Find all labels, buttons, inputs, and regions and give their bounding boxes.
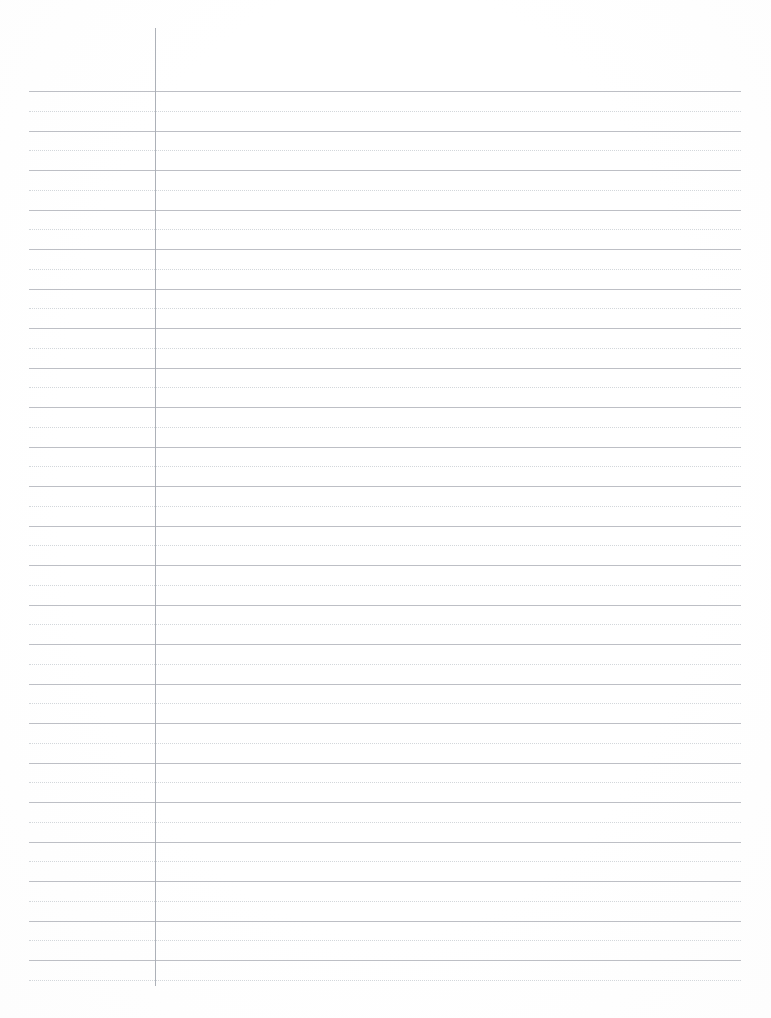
vertical-margin-rule	[155, 28, 156, 986]
rule-line-dotted	[29, 229, 741, 230]
rule-line-dotted	[29, 269, 741, 270]
rule-line-solid	[29, 881, 741, 882]
rule-line-solid	[29, 91, 741, 92]
rule-line-dotted	[29, 150, 741, 151]
rule-line-solid	[29, 921, 741, 922]
rule-line-solid	[29, 289, 741, 290]
rule-line-dotted	[29, 545, 741, 546]
rule-line-solid	[29, 526, 741, 527]
rule-line-solid	[29, 605, 741, 606]
rule-line-solid	[29, 407, 741, 408]
rule-line-solid	[29, 842, 741, 843]
rule-line-dotted	[29, 585, 741, 586]
rule-line-dotted	[29, 348, 741, 349]
paper-page: Ruled Notebook Paper	[0, 0, 771, 1018]
rule-line-solid	[29, 328, 741, 329]
rule-line-dotted	[29, 308, 741, 309]
rule-line-dotted	[29, 190, 741, 191]
rule-line-dotted	[29, 940, 741, 941]
rule-line-dotted	[29, 901, 741, 902]
rule-line-solid	[29, 170, 741, 171]
rule-line-dotted	[29, 466, 741, 467]
rule-line-dotted	[29, 387, 741, 388]
rule-line-solid	[29, 684, 741, 685]
rule-line-solid	[29, 763, 741, 764]
rule-line-solid	[29, 368, 741, 369]
rule-line-dotted	[29, 861, 741, 862]
rule-line-dotted	[29, 980, 741, 981]
rule-line-dotted	[29, 506, 741, 507]
rule-line-solid	[29, 644, 741, 645]
rule-line-dotted	[29, 743, 741, 744]
rule-line-solid	[29, 565, 741, 566]
rule-line-dotted	[29, 111, 741, 112]
rule-line-dotted	[29, 822, 741, 823]
rule-line-solid	[29, 960, 741, 961]
rule-line-solid	[29, 131, 741, 132]
rule-line-dotted	[29, 624, 741, 625]
rule-line-dotted	[29, 664, 741, 665]
rule-line-solid	[29, 210, 741, 211]
rule-line-solid	[29, 802, 741, 803]
rule-line-solid	[29, 447, 741, 448]
rule-line-dotted	[29, 427, 741, 428]
rule-line-solid	[29, 486, 741, 487]
rule-line-dotted	[29, 703, 741, 704]
ruling-grid	[0, 0, 771, 1018]
rule-line-solid	[29, 249, 741, 250]
rule-line-dotted	[29, 782, 741, 783]
rule-line-solid	[29, 723, 741, 724]
